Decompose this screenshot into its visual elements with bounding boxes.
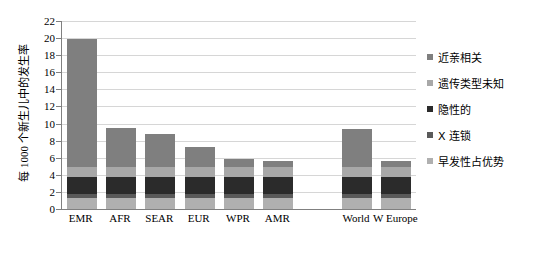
legend-item-label: 隐性的 bbox=[438, 101, 471, 117]
bar-group[interactable] bbox=[67, 39, 97, 209]
bar-segment[interactable] bbox=[263, 198, 293, 209]
bar-segment[interactable] bbox=[106, 128, 136, 167]
legend-item-label: X 连锁 bbox=[438, 127, 471, 143]
bar-series-container bbox=[62, 21, 416, 209]
bar-group[interactable] bbox=[381, 161, 411, 209]
legend-item-label: 遗传类型未知 bbox=[438, 75, 504, 91]
x-axis-tick-label: EUR bbox=[188, 212, 210, 224]
plot-area bbox=[61, 21, 416, 210]
bar-segment[interactable] bbox=[381, 198, 411, 209]
legend-item[interactable]: X 连锁 bbox=[427, 122, 533, 148]
legend-swatch-icon bbox=[427, 106, 433, 112]
bar-segment[interactable] bbox=[145, 177, 175, 194]
bar-group[interactable] bbox=[263, 161, 293, 209]
bar-segment[interactable] bbox=[224, 167, 254, 176]
x-axis-tick-labels: EMRAFRSEAREURWPRAMRWorldW Europe bbox=[61, 212, 415, 232]
y-axis-tick-label: 0 bbox=[50, 204, 56, 215]
y-axis-tick-label: 16 bbox=[44, 67, 55, 78]
bar-group[interactable] bbox=[106, 128, 136, 209]
x-axis-tick-label: World bbox=[342, 212, 369, 224]
bar-segment[interactable] bbox=[263, 167, 293, 176]
bar-segment[interactable] bbox=[185, 177, 215, 194]
x-axis-tick-label: AFR bbox=[109, 212, 130, 224]
bar-group[interactable] bbox=[145, 134, 175, 209]
y-axis-tick-label: 12 bbox=[44, 101, 55, 112]
bar-segment[interactable] bbox=[67, 39, 97, 167]
bar-segment[interactable] bbox=[224, 177, 254, 194]
legend-swatch-icon bbox=[427, 54, 433, 60]
bar-segment[interactable] bbox=[381, 177, 411, 194]
bar-group[interactable] bbox=[342, 129, 372, 209]
bar-segment[interactable] bbox=[342, 198, 372, 209]
x-axis-tick-label: W Europe bbox=[373, 212, 418, 224]
legend-item[interactable]: 早发性占优势 bbox=[427, 148, 533, 174]
legend-swatch-icon bbox=[427, 132, 433, 138]
bar-segment[interactable] bbox=[67, 177, 97, 194]
bar-segment[interactable] bbox=[185, 167, 215, 176]
stacked-bar-chart: 每 1000 个新生儿中的发生率 0246810121416182022 EMR… bbox=[0, 0, 536, 253]
y-axis-tick-label: 2 bbox=[50, 186, 56, 197]
bar-segment[interactable] bbox=[106, 198, 136, 209]
x-axis-tick-label: EMR bbox=[69, 212, 93, 224]
x-axis-tick-label: AMR bbox=[265, 212, 290, 224]
bar-group[interactable] bbox=[224, 159, 254, 209]
legend-swatch-icon bbox=[427, 158, 433, 164]
bar-segment[interactable] bbox=[145, 167, 175, 176]
y-axis-tick-label: 4 bbox=[50, 169, 56, 180]
y-axis-tick-label: 20 bbox=[44, 33, 55, 44]
bar-segment[interactable] bbox=[185, 198, 215, 209]
y-axis-tick-label: 10 bbox=[44, 118, 55, 129]
bar-segment[interactable] bbox=[106, 167, 136, 176]
bar-group[interactable] bbox=[185, 147, 215, 209]
bar-segment[interactable] bbox=[67, 198, 97, 209]
bar-segment[interactable] bbox=[381, 167, 411, 176]
bar-segment[interactable] bbox=[342, 129, 372, 167]
legend-item-label: 早发性占优势 bbox=[438, 153, 504, 169]
bar-segment[interactable] bbox=[106, 177, 136, 194]
bar-segment[interactable] bbox=[145, 134, 175, 167]
y-axis-tick-label: 14 bbox=[44, 84, 55, 95]
bar-segment[interactable] bbox=[224, 198, 254, 209]
y-axis-tick-labels: 0246810121416182022 bbox=[0, 21, 61, 209]
bar-segment[interactable] bbox=[342, 177, 372, 194]
legend-item[interactable]: 遗传类型未知 bbox=[427, 70, 533, 96]
legend-item[interactable]: 隐性的 bbox=[427, 96, 533, 122]
y-axis-tick-label: 8 bbox=[50, 135, 56, 146]
legend-item-label: 近亲相关 bbox=[438, 49, 482, 65]
bar-segment[interactable] bbox=[185, 147, 215, 168]
bar-segment[interactable] bbox=[67, 167, 97, 176]
bar-segment[interactable] bbox=[224, 159, 254, 167]
bar-segment[interactable] bbox=[342, 167, 372, 176]
x-axis-tick-label: WPR bbox=[226, 212, 250, 224]
y-axis-tick-label: 22 bbox=[44, 16, 55, 27]
legend-item[interactable]: 近亲相关 bbox=[427, 44, 533, 70]
legend-swatch-icon bbox=[427, 80, 433, 86]
x-axis-tick-label: SEAR bbox=[145, 212, 173, 224]
bar-segment[interactable] bbox=[145, 198, 175, 209]
bar-segment[interactable] bbox=[263, 177, 293, 194]
y-axis-tick-label: 6 bbox=[50, 152, 56, 163]
y-axis-tick-label: 18 bbox=[44, 50, 55, 61]
chart-legend: 近亲相关遗传类型未知隐性的X 连锁早发性占优势 bbox=[427, 44, 533, 174]
